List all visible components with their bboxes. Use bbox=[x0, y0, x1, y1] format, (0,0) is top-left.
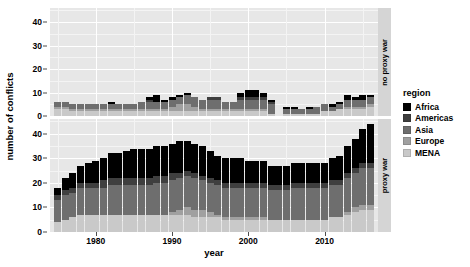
gridline-minor bbox=[50, 146, 378, 147]
bar-stack bbox=[108, 153, 115, 232]
bar-segment bbox=[85, 111, 92, 116]
x-axis-title: year bbox=[50, 247, 378, 258]
bar-segment bbox=[161, 176, 168, 183]
bar-segment bbox=[321, 183, 328, 188]
bar-segment bbox=[153, 102, 160, 109]
legend-item-label: Americas bbox=[415, 113, 453, 123]
gridline-major bbox=[50, 93, 378, 94]
bar-segment bbox=[344, 107, 351, 109]
bar-segment bbox=[169, 111, 176, 116]
bar-segment bbox=[123, 109, 130, 111]
bar-segment bbox=[268, 102, 275, 104]
bar-segment bbox=[123, 111, 130, 116]
bar-segment bbox=[237, 158, 244, 183]
bar-segment bbox=[275, 185, 282, 190]
gridline-minor bbox=[50, 10, 378, 11]
bar-segment bbox=[321, 163, 328, 183]
bar-segment bbox=[306, 114, 313, 116]
bar-segment bbox=[291, 183, 298, 188]
bar-segment bbox=[344, 178, 351, 212]
bar-stack bbox=[329, 158, 336, 232]
bar-stack bbox=[222, 158, 229, 232]
bar-segment bbox=[108, 153, 115, 178]
bar-segment bbox=[291, 109, 298, 114]
bar-segment bbox=[191, 97, 198, 106]
bar-segment bbox=[207, 109, 214, 111]
bar-segment bbox=[321, 104, 328, 111]
bar-segment bbox=[252, 161, 259, 183]
bar-stack bbox=[161, 146, 168, 232]
gridline-minor bbox=[50, 121, 378, 122]
bar-segment bbox=[92, 111, 99, 116]
bar-segment bbox=[161, 183, 168, 215]
bar-segment bbox=[108, 104, 115, 109]
bar-segment bbox=[306, 183, 313, 188]
bar-segment bbox=[237, 97, 244, 99]
bar-segment bbox=[176, 111, 183, 116]
bar-segment bbox=[260, 109, 267, 111]
bar-segment bbox=[115, 111, 122, 116]
bar-segment bbox=[237, 111, 244, 116]
bar-stack bbox=[100, 158, 107, 232]
bar-segment bbox=[344, 95, 351, 100]
bar-stack bbox=[237, 93, 244, 116]
bar-segment bbox=[146, 102, 153, 109]
gridline-major bbox=[50, 69, 378, 70]
bar-stack bbox=[123, 151, 130, 232]
bar-stack bbox=[367, 124, 374, 232]
bar-segment bbox=[69, 193, 76, 218]
bar-segment bbox=[222, 188, 229, 217]
chart-root: number of conflicts 010203040 010203040 … bbox=[0, 0, 470, 267]
y-tick-mark bbox=[43, 133, 47, 134]
bar-segment bbox=[191, 173, 198, 178]
bar-stack bbox=[214, 97, 221, 116]
bar-segment bbox=[214, 215, 221, 217]
bar-segment bbox=[54, 188, 61, 195]
bar-segment bbox=[108, 109, 115, 111]
bar-segment bbox=[100, 158, 107, 180]
bar-segment bbox=[367, 163, 374, 168]
bar-segment bbox=[123, 178, 130, 185]
bar-segment bbox=[62, 190, 69, 195]
bar-segment bbox=[245, 90, 252, 97]
y-tick-label: 30 bbox=[33, 154, 42, 163]
bar-segment bbox=[359, 95, 366, 100]
bar-stack bbox=[207, 97, 214, 116]
bar-segment bbox=[123, 215, 130, 232]
bar-stack bbox=[85, 104, 92, 116]
bar-stack bbox=[92, 161, 99, 232]
gridline-vertical-minor bbox=[134, 8, 135, 116]
bar-segment bbox=[153, 146, 160, 175]
bar-segment bbox=[336, 217, 343, 232]
y-tick-mark bbox=[43, 207, 47, 208]
bar-segment bbox=[237, 220, 244, 232]
bar-segment bbox=[115, 178, 122, 185]
bar-segment bbox=[283, 114, 290, 116]
y-tick-label: 40 bbox=[33, 18, 42, 27]
bar-segment bbox=[199, 109, 206, 111]
bar-segment bbox=[230, 158, 237, 183]
bar-segment bbox=[69, 109, 76, 111]
bar-stack bbox=[268, 166, 275, 232]
panel-proxy-war bbox=[50, 119, 378, 232]
bar-segment bbox=[344, 100, 351, 107]
bar-stack bbox=[184, 141, 191, 232]
bar-segment bbox=[62, 178, 69, 190]
bar-segment bbox=[214, 109, 221, 111]
bar-segment bbox=[260, 100, 267, 109]
legend-item: Africa bbox=[403, 101, 470, 113]
bar-segment bbox=[352, 107, 359, 109]
bar-segment bbox=[222, 183, 229, 188]
bar-segment bbox=[222, 220, 229, 232]
bar-segment bbox=[336, 102, 343, 104]
bar-segment bbox=[184, 111, 191, 116]
bar-segment bbox=[245, 217, 252, 219]
legend-title: region bbox=[403, 88, 470, 98]
bar-stack bbox=[313, 163, 320, 232]
bar-segment bbox=[207, 212, 214, 217]
bar-segment bbox=[85, 104, 92, 109]
bar-segment bbox=[245, 220, 252, 232]
bar-segment bbox=[77, 166, 84, 183]
bar-segment bbox=[252, 97, 259, 99]
bar-segment bbox=[222, 102, 229, 109]
